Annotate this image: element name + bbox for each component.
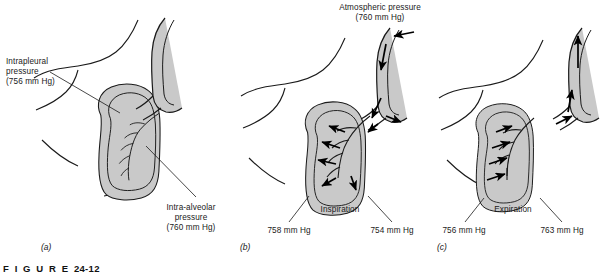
figure-24-12: Intrapleural pressure (756 mm Hg) Intra-… xyxy=(0,0,605,274)
expiration-label: Expiration xyxy=(475,205,551,215)
atmospheric-pressure-label: Atmospheric pressure (760 mm Hg) xyxy=(300,3,460,23)
panel-letter-b: (b) xyxy=(240,242,250,252)
intrapleural-pressure-label: Intrapleural pressure (756 mm Hg) xyxy=(6,57,55,88)
atmospheric-line-2: (760 mm Hg) xyxy=(300,13,460,23)
expiration-pressure-right: 763 mm Hg xyxy=(522,226,602,236)
panel-letter-c: (c) xyxy=(437,242,447,252)
intrapleural-line-3: (756 mm Hg) xyxy=(6,77,55,87)
trachea-c xyxy=(553,28,599,130)
intra-alveolar-line-1: Intra-alveolar xyxy=(141,203,241,213)
trachea-b xyxy=(361,28,407,130)
figure-caption-number: 24-12 xyxy=(74,263,100,274)
inspiration-pressure-left: 758 mm Hg xyxy=(249,226,329,236)
lung-a xyxy=(98,84,160,200)
intrapleural-line-1: Intrapleural xyxy=(6,57,55,67)
figure-caption: F I G U R E 24-12 xyxy=(3,263,100,274)
panel-a-illustration xyxy=(34,18,196,200)
expiration-pressure-left: 756 mm Hg xyxy=(424,226,504,236)
lung-b xyxy=(305,102,365,215)
lung-c xyxy=(476,104,533,212)
inspiration-label: Inspiration xyxy=(300,205,380,215)
intra-alveolar-line-3: (760 mm Hg) xyxy=(141,223,241,233)
panel-letter-a: (a) xyxy=(41,242,51,252)
intra-alveolar-line-2: pressure xyxy=(141,213,241,223)
inspiration-pressure-right: 754 mm Hg xyxy=(352,226,432,236)
panel-b-illustration xyxy=(241,28,414,222)
atmospheric-line-1: Atmospheric pressure xyxy=(300,3,460,13)
panel-c-illustration xyxy=(439,28,599,222)
figure-caption-word: F I G U R E xyxy=(3,263,70,274)
trachea-a xyxy=(136,18,182,120)
intrapleural-line-2: pressure xyxy=(6,67,55,77)
intra-alveolar-pressure-label: Intra-alveolar pressure (760 mm Hg) xyxy=(141,203,241,234)
